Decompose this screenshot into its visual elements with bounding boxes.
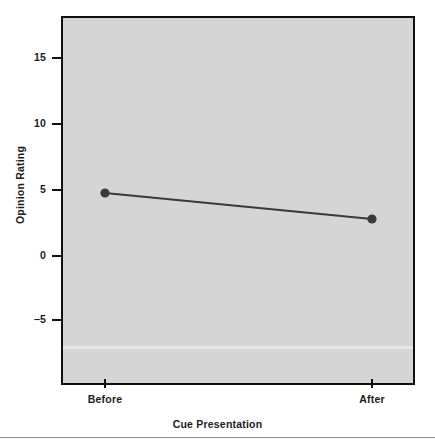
x-tick-mark-before [104, 379, 106, 388]
series-line-opinion-rating [105, 193, 372, 219]
y-tick-mark-minus5 [52, 319, 61, 321]
y-tick-mark-10 [52, 123, 61, 125]
data-point-before [100, 188, 109, 197]
y-tick-label-15: 15 [6, 52, 46, 63]
figure-container: 15 10 5 0 −5 Before After Opinion Rating… [0, 0, 435, 447]
y-tick-mark-15 [52, 57, 61, 59]
y-tick-label-5: 5 [6, 184, 46, 195]
y-tick-label-10: 10 [6, 118, 46, 129]
page-divider [0, 437, 435, 438]
chart-data-layer [0, 0, 435, 447]
x-tick-mark-after [371, 379, 373, 388]
y-axis-title: Opinion Rating [14, 125, 26, 245]
x-axis-title: Cue Presentation [0, 418, 435, 430]
y-tick-label-minus5: −5 [6, 314, 46, 325]
y-tick-mark-5 [52, 189, 61, 191]
y-tick-mark-0 [52, 255, 61, 257]
x-tick-label-before: Before [60, 393, 150, 405]
y-tick-label-0: 0 [6, 250, 46, 261]
x-tick-label-after: After [327, 393, 417, 405]
data-point-after [367, 214, 376, 223]
